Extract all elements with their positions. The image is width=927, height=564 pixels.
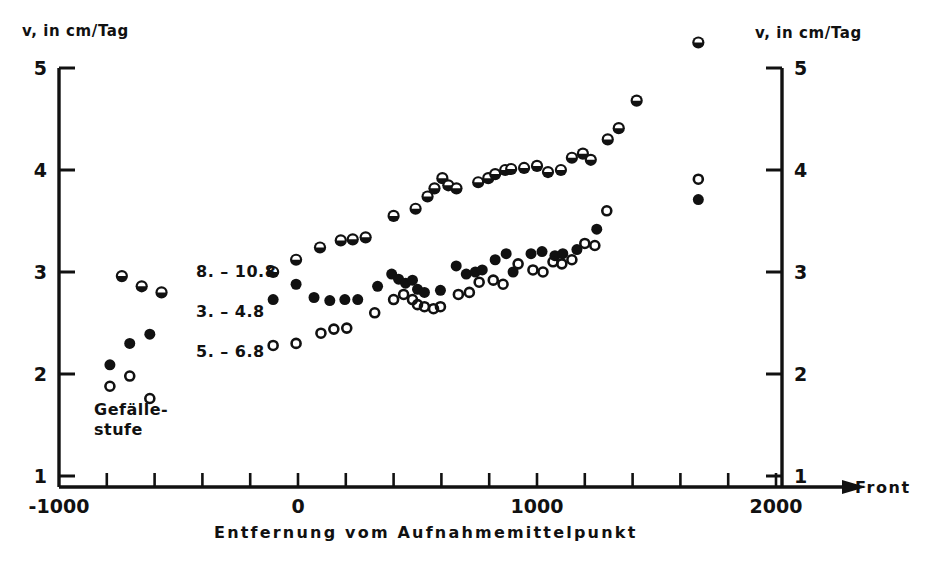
data-point-2-30 — [693, 194, 704, 205]
data-point-1-23 — [542, 166, 554, 178]
data-point-3-0 — [105, 382, 114, 391]
y-tick-label-left-2: 2 — [34, 363, 47, 385]
legend-item-3-4-8: 3. – 4.8 — [196, 302, 265, 321]
data-point-1-29 — [613, 122, 625, 134]
data-point-2-16 — [435, 285, 446, 296]
data-point-1-25 — [566, 152, 578, 164]
data-point-1-27 — [585, 154, 597, 166]
x-tick-label--1000: -1000 — [29, 495, 90, 517]
data-point-2-24 — [526, 248, 537, 259]
data-point-1-22 — [531, 160, 543, 172]
data-point-1-28 — [602, 133, 614, 145]
x-tick-label-0: 0 — [291, 495, 304, 517]
data-point-3-26 — [567, 255, 576, 264]
data-point-2-15 — [419, 287, 430, 298]
data-point-2-4 — [291, 279, 302, 290]
data-point-1-2 — [155, 286, 167, 298]
data-point-3-22 — [528, 265, 537, 274]
annotation-line-1: Gefälle- — [94, 400, 168, 420]
legend-item-8-10-8: 8. – 10.8 — [196, 262, 276, 281]
data-point-1-15 — [450, 182, 462, 194]
y-tick-label-right-5: 5 — [794, 57, 807, 79]
annotation-line-2: stufe — [94, 420, 168, 440]
y-tick-label-right-4: 4 — [794, 159, 807, 181]
data-point-3-29 — [602, 206, 611, 215]
data-point-3-8 — [370, 308, 379, 317]
data-point-2-17 — [451, 260, 462, 271]
y-tick-label-left-3: 3 — [34, 261, 47, 283]
data-point-1-6 — [335, 234, 347, 246]
data-point-3-17 — [465, 288, 474, 297]
data-point-2-7 — [339, 294, 350, 305]
data-point-1-21 — [518, 162, 530, 174]
data-point-3-21 — [514, 259, 523, 268]
y-tick-label-right-2: 2 — [794, 363, 807, 385]
data-point-2-21 — [490, 254, 501, 265]
x-axis-title: Entfernung vom Aufnahmemittelpunkt — [214, 523, 637, 542]
y-tick-label-left-4: 4 — [34, 159, 47, 181]
data-point-3-23 — [538, 268, 547, 277]
data-point-3-20 — [499, 280, 508, 289]
data-points-layer — [104, 36, 704, 403]
data-point-3-30 — [694, 175, 703, 184]
data-point-2-8 — [352, 294, 363, 305]
data-point-2-5 — [309, 292, 320, 303]
chart-axes: 1122334455-1000010002000 — [29, 57, 866, 517]
data-point-2-1 — [124, 338, 135, 349]
data-point-3-1 — [125, 372, 134, 381]
data-point-3-27 — [580, 239, 589, 248]
data-point-3-25 — [557, 259, 566, 268]
data-point-1-5 — [314, 241, 326, 253]
data-point-3-7 — [342, 324, 351, 333]
data-point-3-28 — [590, 241, 599, 250]
y-tick-label-left-1: 1 — [34, 465, 47, 487]
x-tick-label-1000: 1000 — [511, 495, 564, 517]
data-point-2-3 — [268, 294, 279, 305]
data-point-2-20 — [477, 264, 488, 275]
data-point-2-0 — [104, 359, 115, 370]
data-point-1-9 — [388, 210, 400, 222]
scatter-chart: 1122334455-1000010002000 — [0, 0, 927, 564]
data-point-3-9 — [389, 295, 398, 304]
x-tick-label-2000: 2000 — [750, 495, 803, 517]
y-tick-label-right-1: 1 — [794, 465, 807, 487]
data-point-1-4 — [290, 254, 302, 266]
data-point-1-1 — [136, 280, 148, 292]
data-point-2-25 — [537, 246, 548, 257]
data-point-2-6 — [324, 295, 335, 306]
data-point-1-30 — [631, 95, 643, 107]
data-point-3-18 — [475, 278, 484, 287]
data-point-3-4 — [292, 339, 301, 348]
series-2 — [104, 194, 703, 370]
data-point-1-10 — [409, 203, 421, 215]
right-y-axis-label: v, in cm/Tag — [755, 24, 862, 42]
series-1 — [116, 36, 705, 298]
data-point-2-22 — [501, 248, 512, 259]
y-tick-label-right-3: 3 — [794, 261, 807, 283]
data-point-2-29 — [591, 224, 602, 235]
series-3 — [105, 175, 702, 403]
data-point-1-12 — [428, 182, 440, 194]
legend-item-5-6-8: 5. – 6.8 — [196, 342, 265, 361]
data-point-3-10 — [399, 290, 408, 299]
data-point-1-0 — [116, 270, 128, 282]
data-point-2-18 — [461, 269, 472, 280]
data-point-2-2 — [144, 329, 155, 340]
data-point-3-3 — [269, 341, 278, 350]
data-point-1-8 — [360, 231, 372, 243]
data-point-3-5 — [316, 329, 325, 338]
data-point-1-31 — [692, 36, 704, 48]
data-point-3-16 — [454, 290, 463, 299]
data-point-3-6 — [329, 325, 338, 334]
data-point-1-7 — [347, 233, 359, 245]
data-point-3-19 — [489, 276, 498, 285]
data-point-1-24 — [555, 164, 567, 176]
y-tick-label-left-5: 5 — [34, 57, 47, 79]
data-point-2-9 — [372, 281, 383, 292]
data-point-1-20 — [505, 163, 517, 175]
gefaellestufe-annotation: Gefälle- stufe — [94, 400, 168, 440]
front-label: Front — [855, 478, 911, 497]
left-y-axis-label: v, in cm/Tag — [22, 22, 129, 40]
